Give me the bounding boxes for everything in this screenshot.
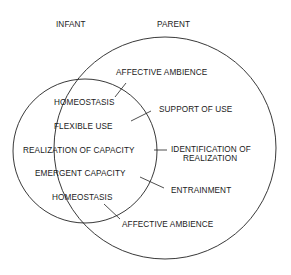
infant-item-homeostasis: HOMEOSTASIS	[54, 98, 115, 107]
parent-header: PARENT	[157, 20, 190, 29]
infant-item-homeostasis-2: HOMEOSTASIS	[52, 193, 113, 202]
connector-homeostasis-ambience	[115, 83, 126, 97]
parent-item-ambience: AFFECTIVE AMBIENCE	[116, 68, 207, 77]
infant-item-realization: REALIZATION OF CAPACITY	[23, 146, 135, 155]
parent-item-support: SUPPORT OF USE	[159, 105, 232, 114]
connector-homeostasis-ambience-bottom	[104, 204, 120, 219]
parent-item-identification: IDENTIFICATION OF	[171, 145, 251, 154]
connector-emergent-entrainment	[140, 177, 164, 188]
circles-and-connectors	[0, 0, 291, 275]
infant-item-flexible-use: FLEXIBLE USE	[54, 122, 113, 131]
parent-item-entrainment: ENTRAINMENT	[171, 186, 231, 195]
parent-item-realization: REALIZATION	[183, 154, 237, 163]
venn-diagram: INFANT PARENT HOMEOSTASIS FLEXIBLE USE R…	[0, 0, 291, 275]
infant-header: INFANT	[56, 20, 86, 29]
parent-item-ambience-2: AFFECTIVE AMBIENCE	[122, 220, 213, 229]
infant-item-emergent: EMERGENT CAPACITY	[35, 169, 126, 178]
